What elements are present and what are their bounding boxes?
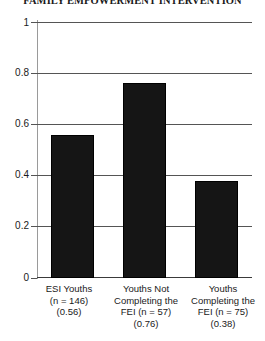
bar-esi-youths <box>51 135 94 278</box>
x-label-0-line3: (0.56) <box>30 306 108 318</box>
y-tick-mark-0 <box>31 278 37 279</box>
x-label-group-0: ESI Youths (n = 146) (0.56) <box>30 283 108 318</box>
x-label-group-2: Youths Completing the FEI (n = 75) (0.38… <box>182 283 264 329</box>
x-label-1-line1: Youths Not <box>104 283 188 295</box>
x-label-2-line4: (0.38) <box>182 318 264 330</box>
x-label-1-line4: (0.76) <box>104 318 188 330</box>
x-label-2-line3: FEI (n = 75) <box>182 306 264 318</box>
x-label-1-line3: FEI (n = 57) <box>104 306 188 318</box>
x-label-group-1: Youths Not Completing the FEI (n = 57) (… <box>104 283 188 329</box>
bar-youths-not-completing-fei <box>123 83 166 278</box>
x-label-2-line2: Completing the <box>182 295 264 307</box>
gridline-1 <box>37 22 252 23</box>
x-label-2-line1: Youths <box>182 283 264 295</box>
x-label-1-line2: Completing the <box>104 295 188 307</box>
x-axis-labels: ESI Youths (n = 146) (0.56) Youths Not C… <box>30 283 262 341</box>
y-tick-label-0: 0 <box>1 273 29 283</box>
y-tick-label-0.4: 0.4 <box>1 170 29 180</box>
y-tick-label-0.6: 0.6 <box>1 119 29 129</box>
chart-title: FAMILY EMPOWERMENT INTERVENTION <box>0 0 265 6</box>
y-tick-label-0.8: 0.8 <box>1 68 29 78</box>
bar-youths-completing-fei <box>195 181 238 278</box>
y-axis-labels: 1 0.8 0.6 0.4 0.2 0 <box>0 0 29 341</box>
plot-area <box>37 22 252 278</box>
bar-chart-figure: FAMILY EMPOWERMENT INTERVENTION 1 0.8 0.… <box>0 0 265 341</box>
y-tick-label-1: 1 <box>1 18 29 28</box>
gridline-0.8 <box>37 73 252 74</box>
y-tick-label-0.2: 0.2 <box>1 221 29 231</box>
x-label-0-line1: ESI Youths <box>30 283 108 295</box>
x-label-0-line2: (n = 146) <box>30 295 108 307</box>
